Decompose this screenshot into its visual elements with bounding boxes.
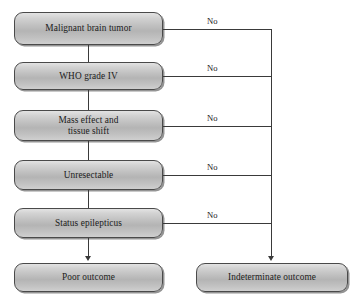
node-unresectable[interactable]: Unresectable [14,160,163,190]
branch-line-3 [163,126,272,127]
node-label: Unresectable [19,170,158,181]
node-label-line1: Unresectable [64,170,114,180]
branch-line-4 [163,175,272,176]
connector-n5-n6 [88,238,89,258]
node-malignant-brain-tumor[interactable]: Malignant brain tumor [14,12,163,45]
node-label: Status epilepticus [19,218,158,229]
branch-line-5 [163,223,272,224]
node-indeterminate-outcome[interactable]: Indeterminate outcome [196,263,348,292]
branch-label-2: No [207,63,218,73]
arrowhead-to-poor-outcome [85,256,91,261]
node-who-grade-iv[interactable]: WHO grade IV [14,62,163,90]
connector-n3-n4 [88,141,89,160]
node-label-line1: Indeterminate outcome [228,272,316,282]
branch-line-1 [163,29,272,30]
node-label: Poor outcome [19,272,158,283]
branch-label-3: No [207,113,218,123]
branch-label-4: No [207,162,218,172]
node-label-line2: tissue shift [19,126,158,137]
node-mass-effect-and-tissue-shift[interactable]: Mass effect and tissue shift [14,110,163,141]
node-label: Malignant brain tumor [19,23,158,34]
node-label-line1: Malignant brain tumor [45,23,131,33]
connector-n4-n5 [88,190,89,208]
arrowhead-to-indeterminate-outcome [268,256,274,261]
node-label-line1: WHO grade IV [59,71,118,81]
node-poor-outcome[interactable]: Poor outcome [14,263,163,292]
node-label: Indeterminate outcome [201,272,343,283]
connector-n2-n3 [88,90,89,110]
node-label: Mass effect and tissue shift [19,115,158,137]
node-label: WHO grade IV [19,71,158,82]
branch-label-1: No [207,16,218,26]
branch-line-2 [163,76,272,77]
node-label-line1: Mass effect and [58,115,118,125]
branch-label-5: No [207,210,218,220]
flowchart-canvas: No No No No No Malignant brain tumor WHO… [0,0,353,302]
node-label-line1: Status epilepticus [55,218,122,228]
connector-n1-n2 [88,45,89,62]
node-status-epilepticus[interactable]: Status epilepticus [14,208,163,238]
node-label-line1: Poor outcome [62,272,115,282]
